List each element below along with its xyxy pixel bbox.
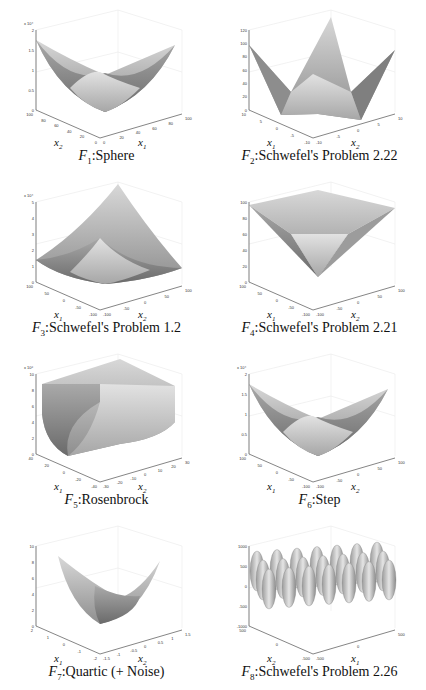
left-tick-label: 20 [45,463,50,468]
z-tick-label: 80 [243,216,248,221]
z-tick-label: 100 [240,200,247,205]
z-tick-label: 1000 [238,544,248,549]
z-tick-label: 4 [32,420,35,425]
left-tick-label: 100 [239,456,246,461]
right-tick-label: 80 [169,121,174,126]
left-tick-label: -1 [77,649,81,654]
left-tick-label: 100 [26,112,33,117]
function-symbol: F [242,148,251,163]
right-tick-label: 30 [185,460,190,465]
right-tick-label: 50 [378,294,383,299]
surface [58,556,160,624]
right-tick-label: 100 [185,116,192,121]
function-symbol: F [242,320,251,335]
right-tick-label: -100 [316,312,325,317]
left-tick-label: 50 [258,291,263,296]
surface-plot: 0204060801001201050-5-10-10-50510x1x2 [213,0,426,150]
z-tick-label: 1 [32,68,35,73]
surface-plot: 00.511.52x 10⁴100500-50-100-100-50050100… [213,344,426,494]
right-tick-label: -1.5 [103,656,111,661]
left-tick-label: 500 [239,628,246,633]
right-tick-label: 60 [152,126,157,131]
right-tick-label: -10 [130,476,137,481]
z-tick-label: 1.5 [28,48,34,53]
z-tick-label: 60 [243,68,248,73]
right-tick-label: -20 [117,480,124,485]
function-name: :Schwefel's Problem 2.26 [255,664,398,679]
left-tick-label: -100 [302,312,311,317]
right-tick-label: 5 [378,122,381,127]
surface-plot: 0246810x 10⁶40200-20-40-30-20-100102030x… [0,344,213,494]
left-tick-label: -20 [75,477,82,482]
z-tick-label: 2 [32,28,35,33]
left-tick-label: 0 [63,470,66,475]
right-tick-label: -50 [124,306,131,311]
z-tick-label: 8 [32,560,35,565]
z-tick-label: 20 [243,94,248,99]
left-tick-label: 0 [276,642,279,647]
z-tick-label: 4 [32,592,35,597]
left-tick-label: -100 [302,484,311,489]
z-exponent-label: x 10⁴ [237,365,247,370]
left-tick-label: 60 [54,123,59,128]
function-name: :Quartic (+ Noise) [62,664,165,679]
subplot-f5: 0246810x 10⁶40200-20-40-30-20-100102030x… [0,344,213,516]
left-tick-label: -50 [288,477,295,482]
surface [249,17,395,120]
subplot-caption: F7:Quartic (+ Noise) [0,664,213,682]
z-tick-label: 0.5 [241,432,247,437]
z-tick-label: 2 [245,372,248,377]
z-tick-label: 20 [243,264,248,269]
subplot-caption: F8:Schwefel's Problem 2.26 [213,664,426,682]
left-tick-label: 0 [95,140,98,145]
right-tick-label: 100 [398,288,405,293]
z-tick-label: 0.5 [28,88,34,93]
right-tick-label: -5 [337,134,341,139]
right-tick-label: 0 [144,300,147,305]
right-tick-label: 20 [119,135,124,140]
z-tick-label: 1.5 [241,392,247,397]
surface [42,359,175,456]
left-tick-label: -5 [290,133,294,138]
surface-plot: 012345x 10⁴100500-50-100-100-50050100x1x… [0,172,213,322]
left-tick-label: 20 [80,134,85,139]
surface-plot: -1000-500050010005000-500-5000500x2x1 [213,516,426,666]
function-symbol: F [299,492,308,507]
function-symbol: F [242,664,251,679]
subplot-f4: 020406080100100500-50-100-100-50050100x1… [213,172,426,344]
surface [36,40,175,112]
subplot-caption: F6:Step [213,492,426,510]
right-tick-label: -0.5 [130,648,138,653]
function-name: :Sphere [92,148,135,163]
left-tick-label: 100 [239,284,246,289]
left-tick-label: -50 [288,305,295,310]
left-tick-label: 0 [276,470,279,475]
z-tick-label: 100 [240,41,247,46]
z-exponent-label: x 10⁴ [24,193,34,198]
right-tick-label: 0 [103,140,106,145]
z-tick-label: 40 [243,81,248,86]
left-tick-label: 40 [29,456,34,461]
surface [36,184,182,284]
right-tick-label: 10 [398,116,403,121]
function-name: :Schwefel's Problem 2.22 [255,148,398,163]
z-tick-label: 2 [32,436,35,441]
left-tick-label: 0 [63,642,66,647]
right-tick-label: -30 [103,484,110,489]
function-name: :Schwefel's Problem 1.2 [45,320,181,335]
z-tick-label: -500 [239,604,248,609]
right-tick-label: 1.5 [185,632,191,637]
function-name: :Step [312,492,341,507]
z-tick-label: 2 [32,608,35,613]
function-symbol: F [49,664,58,679]
left-tick-label: 10 [242,112,247,117]
right-tick-label: 0.5 [158,640,164,645]
function-name: :Rosenbrock [78,492,149,507]
z-tick-label: 500 [240,564,247,569]
subplot-caption: F4:Schwefel's Problem 2.21 [213,320,426,338]
subplot-f8: -1000-500050010005000-500-5000500x2x1F8:… [213,516,426,688]
z-tick-label: 6 [32,404,35,409]
surface [250,542,396,609]
right-tick-label: -50 [337,478,344,483]
function-symbol: F [32,320,41,335]
